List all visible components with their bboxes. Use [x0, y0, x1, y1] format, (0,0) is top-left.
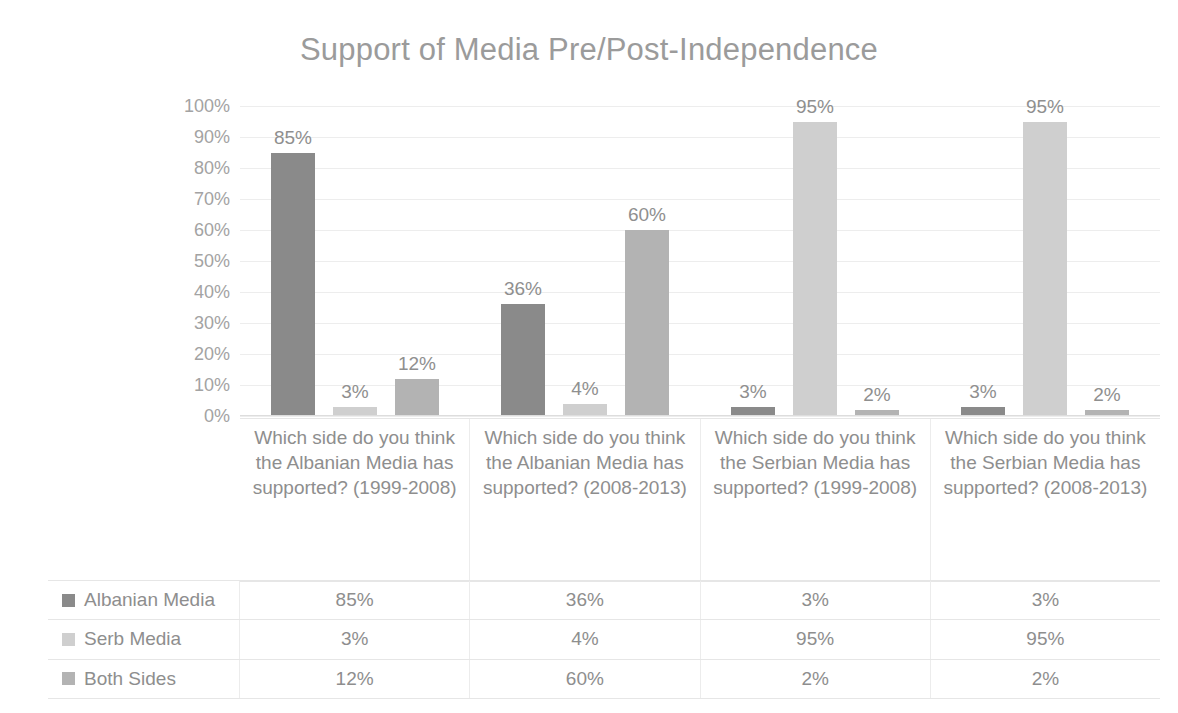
- legend-series-name: Serb Media: [84, 628, 181, 650]
- y-axis-tick-label: 60%: [194, 221, 230, 239]
- bar-value-label: 60%: [628, 205, 666, 224]
- bar-value-label: 36%: [504, 279, 542, 298]
- plot-area: 85%3%12%36%4%60%3%95%2%3%95%2%: [240, 106, 1160, 416]
- bar-value-label: 12%: [398, 354, 436, 373]
- y-axis-tick-label: 90%: [194, 128, 230, 146]
- category-label: Which side do you think the Albanian Med…: [240, 419, 470, 581]
- chart-title: Support of Media Pre/Post-Independence: [0, 32, 1178, 68]
- table-row: Both Sides12%60%2%2%: [48, 660, 1160, 699]
- table-cell: 95%: [931, 620, 1160, 658]
- table-cell: 3%: [701, 581, 931, 619]
- bar-value-label: 95%: [1026, 97, 1064, 116]
- table-cell: 2%: [701, 660, 931, 698]
- bar-value-label: 3%: [739, 382, 766, 401]
- y-axis-tick-label: 50%: [194, 252, 230, 270]
- y-axis-tick-label: 70%: [194, 190, 230, 208]
- bar-group: 36%4%60%: [470, 106, 700, 416]
- legend-swatch-icon: [62, 672, 75, 685]
- y-axis-tick-label: 100%: [184, 97, 230, 115]
- table-cell: 85%: [240, 581, 470, 619]
- table-cell: 4%: [470, 620, 700, 658]
- table-cell: 12%: [240, 660, 470, 698]
- category-label: Which side do you think the Serbian Medi…: [931, 419, 1160, 581]
- table-row: Albanian Media85%36%3%3%: [48, 580, 1160, 620]
- data-table: Albanian Media85%36%3%3%Serb Media3%4%95…: [48, 580, 1160, 695]
- bar-group: 3%95%2%: [700, 106, 930, 416]
- y-axis-tick-label: 40%: [194, 283, 230, 301]
- bar[interactable]: 95%: [793, 122, 837, 417]
- bar[interactable]: 85%: [271, 153, 315, 417]
- bar-group: 85%3%12%: [240, 106, 470, 416]
- y-axis: 100%90%80%70%60%50%40%30%20%10%0%: [150, 106, 230, 416]
- category-label-row: Which side do you think the Albanian Med…: [240, 418, 1160, 582]
- table-cell: 95%: [701, 620, 931, 658]
- bar-value-label: 2%: [863, 385, 890, 404]
- bar-value-label: 3%: [969, 382, 996, 401]
- legend-entry[interactable]: Serb Media: [48, 620, 240, 658]
- bar-value-label: 4%: [571, 379, 598, 398]
- table-row: Serb Media3%4%95%95%: [48, 620, 1160, 659]
- y-axis-tick-label: 80%: [194, 159, 230, 177]
- category-label: Which side do you think the Albanian Med…: [470, 419, 700, 581]
- category-label: Which side do you think the Serbian Medi…: [701, 419, 931, 581]
- legend-series-name: Albanian Media: [84, 589, 215, 611]
- legend-entry[interactable]: Both Sides: [48, 660, 240, 698]
- y-axis-tick-label: 20%: [194, 345, 230, 363]
- legend-series-name: Both Sides: [84, 668, 176, 690]
- y-axis-tick-label: 30%: [194, 314, 230, 332]
- gridline: [240, 416, 1160, 417]
- table-cell: 2%: [931, 660, 1160, 698]
- table-cell: 3%: [240, 620, 470, 658]
- y-axis-tick-label: 10%: [194, 376, 230, 394]
- chart-container: Support of Media Pre/Post-Independence 1…: [0, 0, 1178, 713]
- table-cell: 3%: [931, 581, 1160, 619]
- table-cell: 36%: [470, 581, 700, 619]
- bar-value-label: 2%: [1093, 385, 1120, 404]
- table-cell: 60%: [470, 660, 700, 698]
- bar-value-label: 85%: [274, 128, 312, 147]
- y-axis-tick-label: 0%: [204, 407, 230, 425]
- bar-value-label: 3%: [341, 382, 368, 401]
- bar-value-label: 95%: [796, 97, 834, 116]
- legend-swatch-icon: [62, 594, 75, 607]
- bar[interactable]: 60%: [625, 230, 669, 416]
- bar[interactable]: 95%: [1023, 122, 1067, 417]
- legend-entry[interactable]: Albanian Media: [48, 581, 240, 619]
- bar[interactable]: 36%: [501, 304, 545, 416]
- legend-swatch-icon: [62, 633, 75, 646]
- bar-group: 3%95%2%: [930, 106, 1160, 416]
- x-axis-baseline: [240, 415, 1160, 416]
- bar[interactable]: 12%: [395, 379, 439, 416]
